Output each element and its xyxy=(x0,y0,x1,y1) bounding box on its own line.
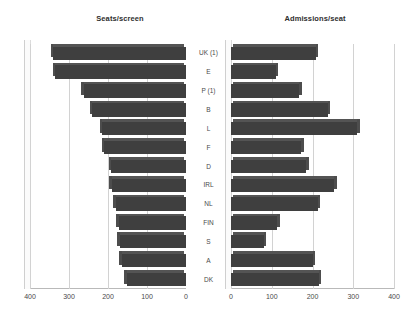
bar-row xyxy=(30,138,186,157)
bar xyxy=(116,197,186,210)
category-label: E xyxy=(186,68,231,75)
bar xyxy=(55,65,186,78)
x-tick-label: 100 xyxy=(266,293,278,300)
x-tick-label: 200 xyxy=(307,293,319,300)
bar xyxy=(231,254,313,267)
bar xyxy=(111,160,186,173)
category-label: IRL xyxy=(186,181,231,188)
bar xyxy=(231,84,299,97)
bar-row xyxy=(231,157,394,176)
x-tick-label: 100 xyxy=(141,293,153,300)
bar-row xyxy=(231,176,394,195)
category-label: DK xyxy=(186,276,231,283)
bar xyxy=(231,273,319,286)
bar xyxy=(231,197,318,210)
category-axis-labels: UK (1)EP (1)BLFDIRLNLFINSADK xyxy=(186,44,231,289)
category-label: A xyxy=(186,257,231,264)
plot-area-admissions-per-seat: 0100200300400 xyxy=(231,44,394,289)
bar xyxy=(231,65,276,78)
bar xyxy=(231,235,264,248)
bar xyxy=(231,122,357,135)
category-label: NL xyxy=(186,200,231,207)
x-tick-label: 0 xyxy=(229,293,233,300)
bar-row xyxy=(30,251,186,270)
bar-row xyxy=(30,157,186,176)
bar xyxy=(231,103,328,116)
bar xyxy=(84,84,186,97)
bar-row xyxy=(231,44,394,63)
x-tick-label: 200 xyxy=(102,293,114,300)
bar xyxy=(102,122,186,135)
x-tick-label: 300 xyxy=(347,293,359,300)
bar xyxy=(231,47,316,60)
bar-row xyxy=(30,214,186,233)
bar-row xyxy=(30,63,186,82)
bar-row xyxy=(231,119,394,138)
bar-row xyxy=(30,176,186,195)
bar-row xyxy=(30,119,186,138)
bar-row xyxy=(30,270,186,289)
x-tick-label: 400 xyxy=(24,293,36,300)
bar xyxy=(120,235,186,248)
dual-bar-chart-figure: Seats/screen Admissions/seat 40030020010… xyxy=(0,0,418,326)
bar xyxy=(53,47,186,60)
bar-row xyxy=(30,232,186,251)
category-label: B xyxy=(186,106,231,113)
bar-row xyxy=(231,270,394,289)
bar-row xyxy=(231,195,394,214)
bar xyxy=(231,141,301,154)
bar-row xyxy=(231,232,394,251)
bar-row xyxy=(231,251,394,270)
gridline xyxy=(394,44,395,289)
bar-row xyxy=(30,82,186,101)
chart-title-seats-per-screen: Seats/screen xyxy=(60,14,180,23)
bar xyxy=(231,216,277,229)
category-label: S xyxy=(186,238,231,245)
bar-row xyxy=(231,138,394,157)
x-tick-label: 300 xyxy=(63,293,75,300)
chart-title-admissions-per-seat: Admissions/seat xyxy=(250,14,380,23)
category-label: F xyxy=(186,144,231,151)
bar xyxy=(231,160,306,173)
bar xyxy=(112,179,186,192)
bar-row xyxy=(30,195,186,214)
bar xyxy=(104,141,186,154)
bar-row xyxy=(231,82,394,101)
plot-area-seats-per-screen: 4003002001000 xyxy=(30,44,186,289)
bar xyxy=(231,179,334,192)
bar xyxy=(127,273,186,286)
x-tick-label: 0 xyxy=(184,293,188,300)
bar-row xyxy=(231,214,394,233)
bar xyxy=(122,254,186,267)
x-tick-label: 400 xyxy=(388,293,400,300)
category-label: D xyxy=(186,163,231,170)
category-label: P (1) xyxy=(186,87,231,94)
category-label: L xyxy=(186,125,231,132)
category-label: UK (1) xyxy=(186,49,231,56)
category-label: FIN xyxy=(186,219,231,226)
bar-row xyxy=(30,101,186,120)
bar-row xyxy=(231,101,394,120)
bar xyxy=(119,216,186,229)
bar-row xyxy=(231,63,394,82)
bar xyxy=(92,103,186,116)
bar-row xyxy=(30,44,186,63)
